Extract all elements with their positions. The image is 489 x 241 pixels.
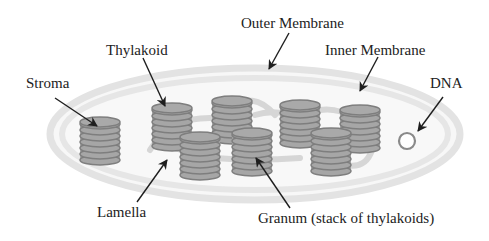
- granum-stack: [232, 128, 272, 176]
- granum-stack: [311, 128, 351, 176]
- granum-stack: [80, 117, 120, 165]
- label-dna: DNA: [430, 76, 463, 91]
- label-outer-membrane: Outer Membrane: [241, 16, 344, 31]
- label-granum: Granum (stack of thylakoids): [258, 211, 434, 226]
- arrow-outer-membrane: [269, 33, 289, 69]
- granum-stack: [180, 132, 220, 180]
- label-thylakoid: Thylakoid: [106, 43, 168, 58]
- label-lamella: Lamella: [97, 205, 146, 220]
- dna-ring-icon: [399, 133, 415, 149]
- label-inner-membrane: Inner Membrane: [325, 43, 425, 58]
- label-stroma: Stroma: [26, 76, 69, 91]
- chloroplast-diagram: [0, 0, 489, 241]
